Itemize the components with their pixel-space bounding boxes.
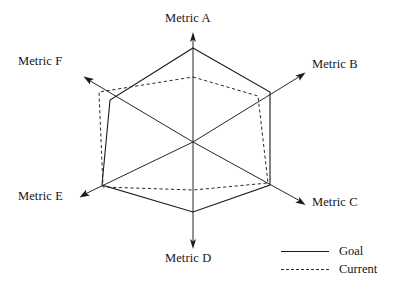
series-polygon-current [99, 77, 268, 190]
legend-item-current: Current [281, 260, 377, 278]
axis-label-metric-c: Metric C [312, 196, 358, 209]
axis-line-metric-e [83, 142, 193, 195]
axis-label-metric-a: Metric A [165, 12, 211, 25]
radar-chart: Metric A Metric B Metric C Metric D Metr… [0, 0, 398, 295]
axis-line-metric-b [193, 75, 302, 142]
legend-item-goal: Goal [281, 242, 363, 260]
axis-label-metric-f: Metric F [18, 55, 62, 68]
arrow-head-metric-f [84, 77, 95, 85]
legend-label-goal: Goal [339, 244, 363, 259]
arrow-head-metric-e [80, 190, 91, 198]
axis-label-metric-d: Metric D [165, 252, 211, 265]
arrow-head-metric-b [295, 73, 305, 81]
legend-swatch-current-icon [281, 263, 329, 275]
axis-label-metric-e: Metric E [18, 190, 63, 203]
chart-legend: Goal Current [281, 240, 393, 284]
axis-label-metric-b: Metric B [312, 58, 358, 71]
legend-swatch-goal-icon [281, 245, 329, 257]
axis-line-metric-f [87, 79, 193, 142]
arrow-head-metric-c [295, 197, 305, 205]
axis-group [83, 36, 302, 245]
legend-label-current: Current [339, 262, 377, 277]
